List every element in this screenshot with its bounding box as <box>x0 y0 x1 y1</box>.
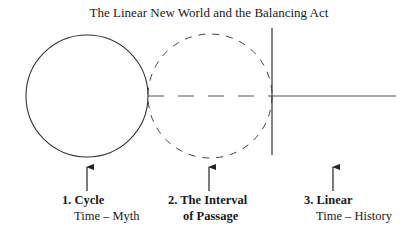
stage-label-interval: 2. The Interval of Passage <box>168 192 247 224</box>
stage-heading: 3. Linear <box>304 192 392 208</box>
stage-subtitle: of Passage <box>168 208 247 224</box>
stage-subtitle: Time – History <box>304 208 392 224</box>
stage-label-cycle: 1. Cycle Time – Myth <box>62 192 140 224</box>
stage-heading: 2. The Interval <box>168 192 247 208</box>
stage-subtitle: Time – Myth <box>62 208 140 224</box>
stage-label-linear: 3. Linear Time – History <box>304 192 392 224</box>
cycle-circle <box>26 35 148 157</box>
stage-heading: 1. Cycle <box>62 192 140 208</box>
